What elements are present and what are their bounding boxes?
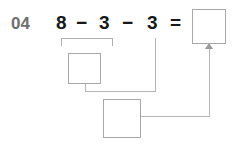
problem-number: 04 [11,14,30,34]
minus-operator-second: − [122,12,133,34]
step-2-box[interactable] [103,99,141,138]
worksheet-problem-canvas: 04 8 − 3 − 3 = [0,0,238,145]
operand-first: 8 [56,12,67,34]
connector-step2-up-to-answer [209,48,210,117]
arrow-up-icon [205,43,213,49]
equals-sign: = [170,12,181,34]
step-1-box[interactable] [68,53,101,84]
connector-step2-across [141,116,210,117]
operand-second: 3 [99,12,110,34]
connector-step1-up-to-operand [155,38,156,92]
connector-step1-across [85,91,156,92]
minus-operator-first: − [76,12,87,34]
grouping-bracket [61,38,113,46]
answer-box[interactable] [192,9,226,44]
operand-third: 3 [147,12,158,34]
